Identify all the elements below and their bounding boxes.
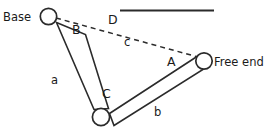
angle-d-label: D <box>108 12 118 27</box>
angle-a-label: A <box>167 54 176 69</box>
angle-b-label: B <box>72 22 81 37</box>
base-joint-circle <box>40 8 56 24</box>
kinematic-diagram-canvas: Base Free end D B c A a C b <box>0 0 280 132</box>
segment-c-label: c <box>124 35 130 49</box>
link-a-label: a <box>51 73 58 87</box>
free-end-label: Free end <box>214 55 264 69</box>
base-label: Base <box>3 10 31 24</box>
angle-c-label: C <box>102 86 111 101</box>
middle-joint-circle <box>92 108 109 125</box>
free-end-joint-circle <box>196 53 212 69</box>
kinematic-chain-figure: Base Free end D B c A a C b <box>0 0 280 132</box>
link-a-bar <box>57 23 109 110</box>
link-b-label: b <box>154 105 161 119</box>
